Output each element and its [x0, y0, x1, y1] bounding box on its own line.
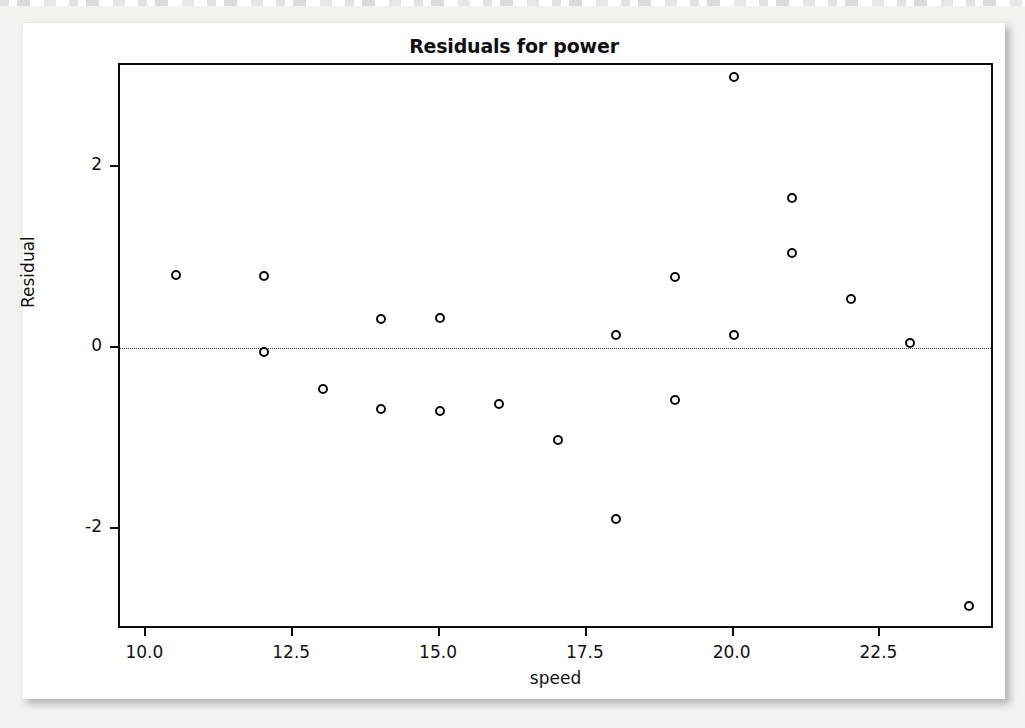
- data-point: [964, 601, 974, 611]
- x-axis-tick-label: 20.0: [692, 642, 772, 662]
- x-axis-tick-label: 15.0: [398, 642, 478, 662]
- data-point: [846, 294, 856, 304]
- plot-inner-area: [120, 65, 991, 626]
- x-axis-tick: [291, 628, 293, 636]
- data-point: [435, 406, 445, 416]
- x-axis-label: speed: [118, 668, 993, 688]
- data-point: [611, 330, 621, 340]
- data-point: [376, 314, 386, 324]
- y-axis-tick-label: 0: [42, 335, 102, 355]
- x-axis-tick: [438, 628, 440, 636]
- data-point: [729, 72, 739, 82]
- data-point: [787, 193, 797, 203]
- x-axis-tick-label: 22.5: [838, 642, 918, 662]
- chart-title: Residuals for power: [23, 35, 1005, 57]
- data-point: [553, 435, 563, 445]
- x-axis-tick: [144, 628, 146, 636]
- data-point: [318, 384, 328, 394]
- x-axis-tick-label: 12.5: [251, 642, 331, 662]
- x-axis-tick: [585, 628, 587, 636]
- y-axis-tick: [110, 165, 118, 167]
- y-axis-label: Residual: [18, 236, 38, 308]
- x-axis-tick: [732, 628, 734, 636]
- figure-card: Residuals for power Residual speed 10.01…: [22, 22, 1005, 699]
- y-axis-tick: [110, 527, 118, 529]
- data-point: [259, 347, 269, 357]
- data-point: [494, 399, 504, 409]
- x-axis-tick: [878, 628, 880, 636]
- data-point: [670, 272, 680, 282]
- data-point: [376, 404, 386, 414]
- data-point: [611, 514, 621, 524]
- y-axis-tick-label: -2: [42, 516, 102, 536]
- data-point: [905, 338, 915, 348]
- data-point: [670, 395, 680, 405]
- x-axis-tick-label: 10.0: [104, 642, 184, 662]
- y-axis-tick-label: 2: [42, 154, 102, 174]
- y-axis-tick: [110, 346, 118, 348]
- plot-frame: [118, 63, 993, 628]
- residual-scatter-chart: Residuals for power Residual speed 10.01…: [23, 23, 1005, 699]
- data-point: [171, 270, 181, 280]
- data-point: [729, 330, 739, 340]
- x-axis-tick-label: 17.5: [545, 642, 625, 662]
- data-point: [435, 313, 445, 323]
- data-point: [259, 271, 269, 281]
- data-point: [787, 248, 797, 258]
- zero-reference-line: [120, 348, 991, 349]
